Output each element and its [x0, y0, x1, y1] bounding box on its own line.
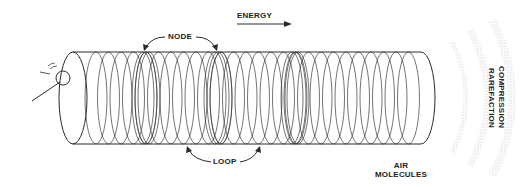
energy-arrow-icon	[237, 21, 292, 27]
wave-rings	[85, 52, 420, 144]
air-molecules-label: AIR MOLECULES	[371, 161, 431, 179]
diagram-drawing	[0, 0, 530, 187]
air-molecules-label-line2: MOLECULES	[371, 170, 431, 179]
air-molecules-label-line1: AIR	[371, 161, 431, 170]
rarefaction-label: RAREFACTION	[487, 68, 496, 128]
standing-wave-tube-diagram: ENERGY NODE LOOP AIR MOLECULES COMPRESSI…	[0, 0, 530, 187]
striker-mallet-icon	[32, 63, 70, 101]
compression-label: COMPRESSION	[497, 66, 506, 128]
energy-label: ENERGY	[237, 11, 272, 20]
loop-label: LOOP	[213, 157, 236, 166]
node-label: NODE	[168, 32, 192, 41]
